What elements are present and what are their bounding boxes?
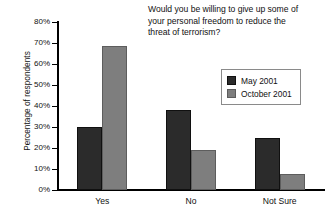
bar-chart: Would you be willing to give up some of … [0, 0, 329, 218]
bar-not-sure-may-2001 [255, 138, 280, 191]
bar-yes-october-2001 [102, 46, 127, 190]
chart-title-line-1: Would you be willing to give up some of [148, 4, 298, 14]
y-axis-tick-label: 50% [2, 80, 50, 89]
legend-swatch-icon [227, 89, 236, 98]
chart-legend: May 2001October 2001 [221, 69, 301, 105]
y-axis-tick-label: 0% [2, 185, 50, 194]
y-axis-tick-label: 80% [2, 17, 50, 26]
plot-area [58, 22, 324, 190]
legend-item-october-2001: October 2001 [227, 87, 292, 100]
bar-not-sure-october-2001 [280, 174, 305, 190]
bar-yes-may-2001 [77, 127, 102, 190]
legend-swatch-icon [227, 76, 236, 85]
bar-no-may-2001 [166, 110, 191, 190]
x-axis-label-no: No [186, 196, 197, 206]
y-axis-tick [52, 190, 58, 191]
x-axis-label-not-sure: Not Sure [263, 196, 297, 206]
y-axis-tick-label: 70% [2, 38, 50, 47]
y-axis-tick-label: 20% [2, 143, 50, 152]
y-axis-tick-label: 30% [2, 122, 50, 131]
legend-item-may-2001: May 2001 [227, 74, 292, 87]
x-axis-label-yes: Yes [95, 196, 109, 206]
legend-label: October 2001 [241, 89, 292, 99]
bar-no-october-2001 [191, 150, 216, 190]
legend-label: May 2001 [241, 76, 278, 86]
y-axis-tick-label: 60% [2, 59, 50, 68]
y-axis-tick-label: 10% [2, 164, 50, 173]
y-axis-tick-label: 40% [2, 101, 50, 110]
